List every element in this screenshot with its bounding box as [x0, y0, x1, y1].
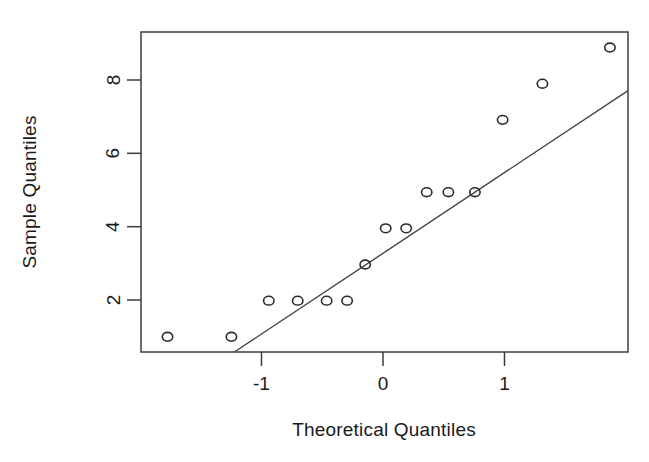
y-tick-label-4: 4: [103, 221, 124, 232]
figure-background: [0, 0, 649, 462]
y-tick-label-8: 8: [103, 75, 124, 86]
x-tick-label-0: 0: [378, 373, 389, 394]
y-tick-label-2: 2: [103, 295, 124, 306]
y-tick-label-6: 6: [103, 148, 124, 159]
x-axis-title: Theoretical Quantiles: [292, 419, 476, 440]
qq-plot-figure: 2 4 6 8 -1 0 1 Theoretical Quantiles Sam…: [0, 0, 649, 462]
qq-plot-screen: 2 4 6 8 -1 0 1 Theoretical Quantiles Sam…: [0, 0, 649, 462]
y-axis-title: Sample Quantiles: [19, 115, 40, 268]
x-tick-label-1: 1: [499, 373, 510, 394]
x-tick-label-neg1: -1: [253, 373, 270, 394]
